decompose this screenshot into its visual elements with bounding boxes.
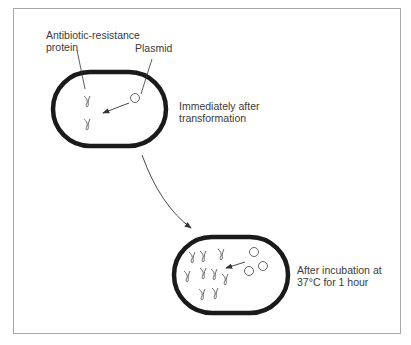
plasmid-icon [259, 262, 268, 271]
plasmid-icon [131, 94, 140, 103]
plasmid-icon [250, 248, 259, 257]
time-arrow [142, 155, 191, 228]
synthesis-arrow [226, 262, 245, 268]
protein-label: Antibiotic-resistance protein [46, 29, 140, 53]
plasmid-label: Plasmid [135, 42, 172, 54]
state2-line1: After incubation at [297, 264, 382, 276]
protein-icon [84, 96, 90, 107]
state1-line1: Immediately after [179, 100, 260, 112]
protein-leader-line [77, 50, 85, 89]
synthesis-arrow [103, 103, 129, 113]
plasmid-icon [245, 267, 254, 276]
state2-line2: 37°C for 1 hour [297, 276, 382, 288]
protein-icon [84, 119, 90, 130]
cell-before [53, 72, 166, 146]
cell-after [174, 237, 288, 313]
protein-label-line1: Antibiotic-resistance [46, 29, 140, 41]
protein-label-line2: protein [46, 41, 140, 53]
state1-label: Immediately after transformation [179, 100, 260, 124]
state2-label: After incubation at 37°C for 1 hour [297, 264, 382, 288]
state1-line2: transformation [179, 112, 260, 124]
